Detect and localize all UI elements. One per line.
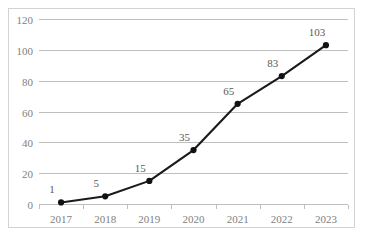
x-axis-tick-label: 2018 xyxy=(94,213,117,225)
series-data-point[interactable] xyxy=(279,73,285,79)
series-data-point[interactable] xyxy=(102,193,108,199)
x-axis-tick-label: 2023 xyxy=(315,213,338,225)
x-axis-tick-label: 2017 xyxy=(50,213,73,225)
chart-container: 0204060801001202017201820192020202120222… xyxy=(8,8,355,228)
series-data-point[interactable] xyxy=(323,42,329,48)
y-axis-tick-label: 40 xyxy=(22,137,34,149)
y-axis-tick-label: 80 xyxy=(22,76,34,88)
y-axis-tick-label: 120 xyxy=(17,14,34,26)
series-data-label: 83 xyxy=(267,57,279,69)
y-axis-tick-label: 100 xyxy=(17,45,34,57)
line-chart-plot: 0204060801001202017201820192020202120222… xyxy=(9,9,354,227)
x-axis-tick-label: 2019 xyxy=(138,213,161,225)
y-axis-tick-label: 60 xyxy=(22,107,34,119)
series-data-label: 5 xyxy=(93,177,99,189)
y-axis-tick-label: 20 xyxy=(22,168,34,180)
series-data-label: 65 xyxy=(223,85,235,97)
y-axis-tick-label: 0 xyxy=(28,199,34,211)
series-data-label: 1 xyxy=(49,183,55,195)
series-line-path xyxy=(61,45,326,202)
series-data-label: 15 xyxy=(135,162,147,174)
series-data-point[interactable] xyxy=(190,147,196,153)
series-data-point[interactable] xyxy=(58,199,64,205)
x-axis-tick-label: 2020 xyxy=(183,213,206,225)
series-data-label: 35 xyxy=(179,131,191,143)
series-data-point[interactable] xyxy=(235,101,241,107)
series-data-label: 103 xyxy=(309,26,326,38)
x-axis-tick-label: 2021 xyxy=(227,213,249,225)
series-data-point[interactable] xyxy=(146,178,152,184)
x-axis-tick-label: 2022 xyxy=(271,213,293,225)
